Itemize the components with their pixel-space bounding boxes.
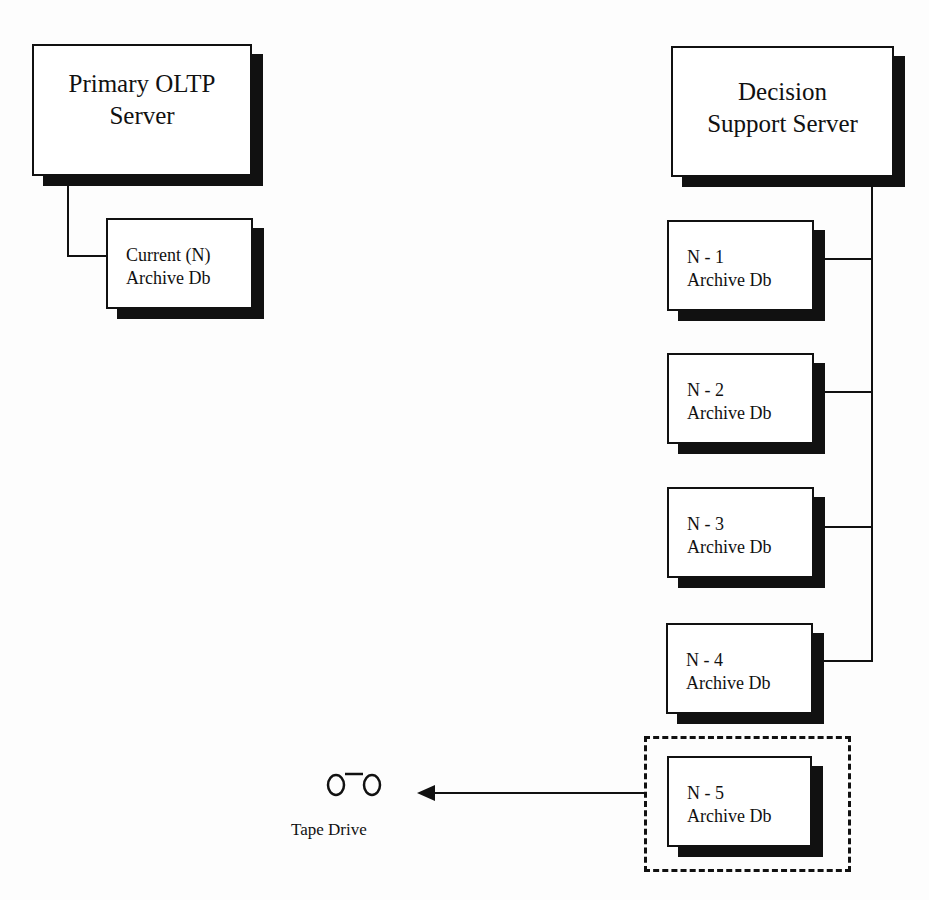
archive-db-n-1-box: N - 1 Archive Db (667, 220, 814, 311)
archive-n-4-line2: Archive Db (686, 672, 770, 695)
archive-n-2-line2: Archive Db (687, 402, 771, 425)
archive-db-n-2-box: N - 2 Archive Db (667, 353, 814, 444)
archive-n-3-line1: N - 3 (687, 513, 724, 536)
archive-n-3-line2: Archive Db (687, 536, 771, 559)
decision-support-server-box: Decision Support Server (671, 46, 894, 177)
decision-server-line1: Decision (673, 76, 892, 107)
archive-n-1-line2: Archive Db (687, 269, 771, 292)
arrow-to-tape-drive-shaft (432, 792, 646, 794)
tape-reel-icon (325, 769, 385, 799)
primary-server-line2: Server (34, 100, 250, 131)
archive-n-1-line1: N - 1 (687, 246, 724, 269)
connector-n-3 (824, 526, 873, 528)
archive-db-n-3-box: N - 3 Archive Db (667, 487, 814, 578)
connector-n-1 (824, 258, 873, 260)
tape-drive-label: Tape Drive (291, 820, 367, 840)
primary-oltp-server-box: Primary OLTP Server (32, 44, 252, 176)
archive-db-n-4-box: N - 4 Archive Db (666, 623, 813, 714)
primary-server-line1: Primary OLTP (34, 68, 250, 99)
connector-primary-to-current-vertical (67, 186, 69, 257)
current-archive-db-box: Current (N) Archive Db (106, 218, 253, 309)
connector-n-4 (823, 660, 873, 662)
current-archive-line2: Archive Db (126, 267, 210, 290)
archive-db-n-5-box: N - 5 Archive Db (667, 756, 812, 847)
archive-n-2-line1: N - 2 (687, 379, 724, 402)
archive-n-4-line1: N - 4 (686, 649, 723, 672)
archive-n-5-line1: N - 5 (687, 782, 724, 805)
decision-server-line2: Support Server (673, 108, 892, 139)
archive-n-5-line2: Archive Db (687, 805, 771, 828)
arrow-head-icon (417, 784, 435, 802)
connector-primary-to-current-horizontal (67, 255, 107, 257)
connector-n-2 (824, 391, 873, 393)
current-archive-line1: Current (N) (126, 244, 210, 267)
